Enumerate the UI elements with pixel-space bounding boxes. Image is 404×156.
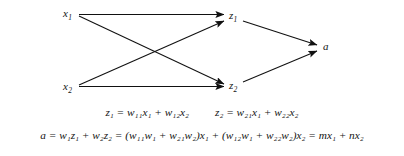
node-subscript-x2: 2 — [68, 86, 72, 95]
node-label-a: a — [323, 41, 329, 52]
node-subscript-z1: 1 — [234, 15, 238, 24]
node-label-z1: z1 — [229, 10, 237, 21]
equation-z1: z₁ = w₁₁x₁ + w₁₂x₂ — [105, 107, 189, 118]
node-label-x1: x1 — [63, 8, 72, 19]
node-subscript-z2: 2 — [234, 85, 238, 94]
equation-line-2: a = w₁z₁ + w₂z₂ = (w₁₁w₁ + w₂₁w₂)x₁ + (w… — [0, 130, 404, 141]
network-diagram — [0, 0, 404, 104]
node-symbol-a: a — [323, 40, 329, 52]
equation-line-1: z₁ = w₁₁x₁ + w₁₂x₂z₂ = w₂₁x₁ + w₂₂x₂ — [0, 107, 404, 118]
edge-z1-a — [243, 21, 317, 45]
edge-z2-a — [243, 51, 317, 82]
edge-x2-z1 — [79, 21, 224, 85]
node-subscript-x1: 1 — [68, 13, 72, 22]
node-symbol-z2: z — [229, 79, 233, 91]
node-symbol-z1: z — [229, 9, 233, 21]
node-label-x2: x2 — [63, 81, 72, 92]
equation-z2: z₂ = w₂₁x₁ + w₂₂x₂ — [215, 107, 299, 118]
figure-canvas: x1 x2 z1 z2 a z₁ = w₁₁x₁ + w₁₂x₂z₂ = w₂₁… — [0, 0, 404, 156]
node-label-z2: z2 — [229, 80, 237, 91]
edge-x1-z2 — [79, 16, 224, 84]
